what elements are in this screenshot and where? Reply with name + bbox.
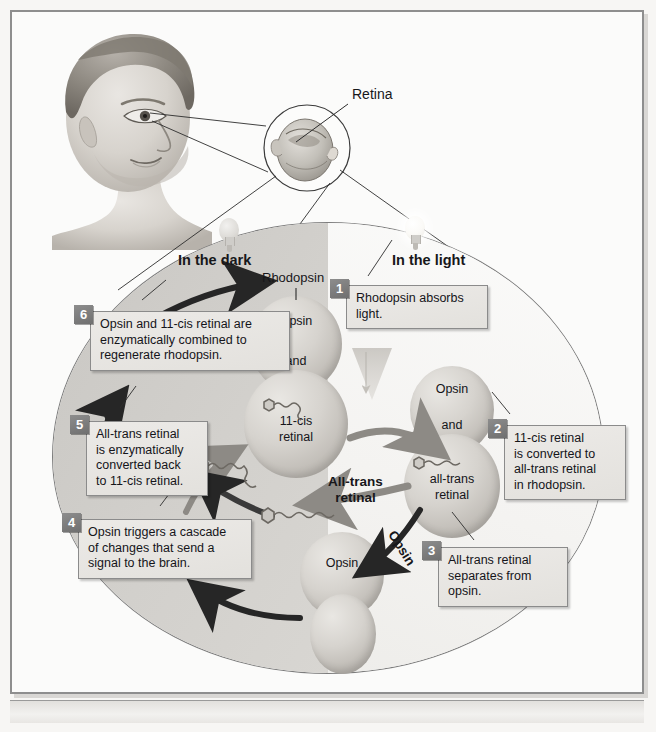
step-text-4: Opsin triggers a cascade of changes that… bbox=[78, 519, 252, 579]
molecule-line: and bbox=[404, 418, 500, 432]
molecule-opsin-all-trans: Opsin and all-trans retinal bbox=[404, 366, 500, 538]
header-in-the-light: In the light bbox=[392, 252, 465, 269]
header-in-the-dark: In the dark bbox=[178, 252, 251, 269]
figure-stage: Opsin and 11-cis retinal Opsin and all-t… bbox=[0, 0, 656, 732]
step-callout-2[interactable]: 2 11-cis retinal is converted to all-tra… bbox=[488, 418, 626, 500]
step-number-5: 5 bbox=[70, 415, 89, 434]
figure-page: Opsin and 11-cis retinal Opsin and all-t… bbox=[0, 0, 656, 732]
step-number-4: 4 bbox=[62, 513, 81, 532]
molecule-line: Opsin bbox=[404, 382, 500, 396]
step-text-6: Opsin and 11-cis retinal are enzymatical… bbox=[90, 311, 290, 371]
label-rhodopsin: Rhodopsin bbox=[262, 270, 324, 285]
molecule-line: all-trans retinal bbox=[404, 472, 500, 503]
step-number-3: 3 bbox=[422, 541, 441, 560]
step-callout-4[interactable]: 4 Opsin triggers a cascade of changes th… bbox=[62, 512, 252, 579]
step-callout-3[interactable]: 3 All-trans retinal separates from opsin… bbox=[422, 540, 568, 607]
step-number-2: 2 bbox=[488, 419, 507, 438]
step-number-6: 6 bbox=[74, 305, 93, 324]
label-all-trans-retinal: All-trans retinal bbox=[328, 474, 383, 507]
step-number-1: 1 bbox=[330, 279, 349, 298]
step-text-5: All-trans retinal is enzymatically conve… bbox=[86, 421, 208, 496]
step-text-2: 11-cis retinal is converted to all-trans… bbox=[504, 425, 626, 500]
step-callout-1[interactable]: 1 Rhodopsin absorbs light. bbox=[330, 278, 488, 329]
molecule-line: Opsin bbox=[294, 556, 390, 570]
step-callout-5[interactable]: 5 All-trans retinal is enzymatically con… bbox=[70, 414, 208, 496]
label-retina: Retina bbox=[352, 86, 392, 103]
step-text-1: Rhodopsin absorbs light. bbox=[346, 285, 488, 329]
molecule-line: 11-cis retinal bbox=[244, 414, 348, 445]
step-callout-6[interactable]: 6 Opsin and 11-cis retinal are enzymatic… bbox=[74, 304, 290, 371]
molecule-free-opsin: Opsin bbox=[294, 532, 390, 674]
step-text-3: All-trans retinal separates from opsin. bbox=[438, 547, 568, 607]
